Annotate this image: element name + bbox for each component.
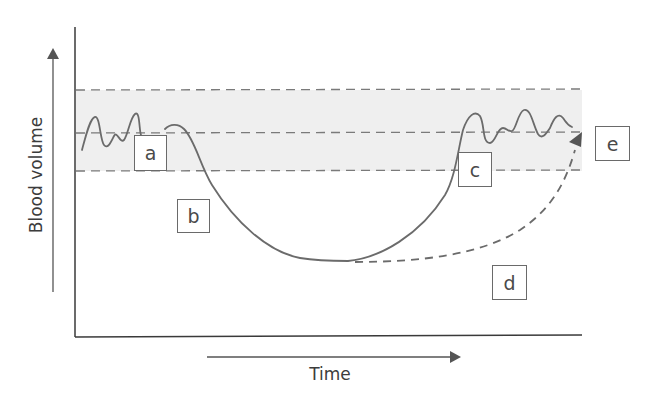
label-b-text: b	[187, 205, 199, 227]
x-axis	[75, 335, 582, 337]
blood-volume-diagram	[0, 0, 645, 395]
label-box-c: c	[458, 152, 492, 187]
label-d-text: d	[503, 272, 515, 294]
label-box-a: a	[134, 135, 167, 171]
label-e-text: e	[607, 133, 619, 155]
label-box-d: d	[492, 265, 527, 300]
label-a-text: a	[145, 142, 157, 164]
x-direction-arrowhead-icon	[450, 351, 461, 363]
y-direction-arrowhead-icon	[47, 48, 59, 59]
label-c-text: c	[470, 159, 480, 181]
x-axis-label: Time	[309, 364, 351, 384]
label-box-b: b	[177, 199, 210, 233]
y-axis-label: Blood volume	[26, 117, 46, 233]
upper-limit-dashed-line	[76, 89, 582, 90]
label-box-e: e	[595, 126, 630, 161]
